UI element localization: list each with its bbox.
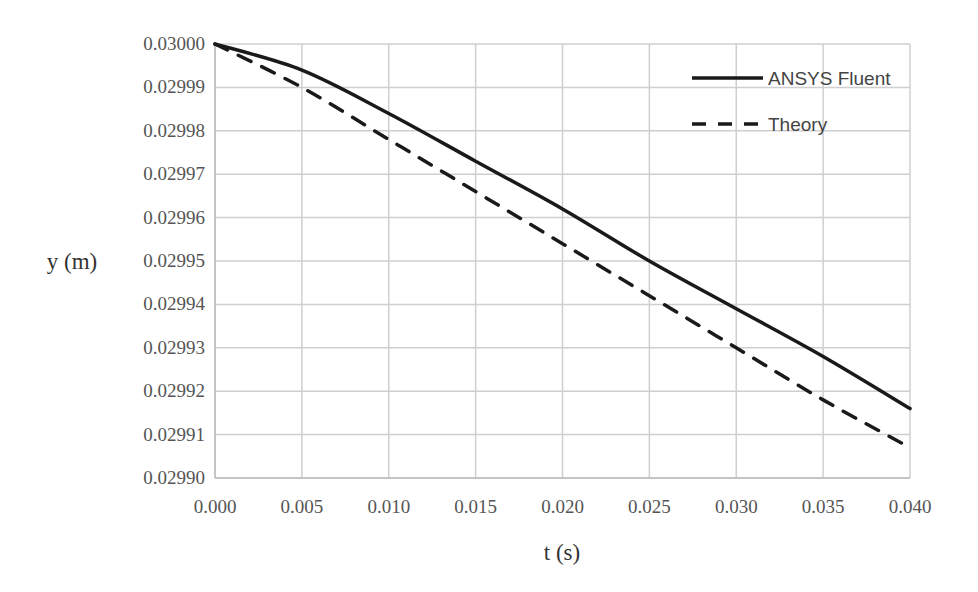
y-tick-label: 0.02995 [143,250,205,271]
y-tick-label: 0.02998 [143,120,205,141]
x-tick-label: 0.015 [454,496,497,517]
legend-label: Theory [768,114,828,135]
x-tick-label: 0.020 [541,496,584,517]
legend: ANSYS FluentTheory [692,68,891,135]
y-tick-label: 0.02990 [143,467,205,488]
y-tick-label: 0.02993 [143,337,205,358]
x-tick-label: 0.025 [628,496,671,517]
axis-ticks: 0.029900.029910.029920.029930.029940.029… [143,33,931,517]
y-tick-label: 0.02994 [143,293,205,314]
x-tick-label: 0.035 [802,496,845,517]
y-tick-label: 0.02991 [143,424,205,445]
x-tick-label: 0.030 [715,496,758,517]
y-tick-label: 0.02992 [143,380,205,401]
y-tick-label: 0.02999 [143,76,205,97]
y-tick-label: 0.03000 [143,33,205,54]
y-axis-label: y (m) [47,249,97,274]
line-chart: 0.029900.029910.029920.029930.029940.029… [0,0,978,592]
y-tick-label: 0.02997 [143,163,205,184]
x-tick-label: 0.040 [889,496,932,517]
x-tick-label: 0.000 [194,496,237,517]
x-tick-label: 0.010 [367,496,410,517]
x-axis-label: t (s) [544,540,580,565]
grid [215,44,910,478]
x-tick-label: 0.005 [281,496,324,517]
y-tick-label: 0.02996 [143,207,205,228]
legend-label: ANSYS Fluent [768,68,891,89]
